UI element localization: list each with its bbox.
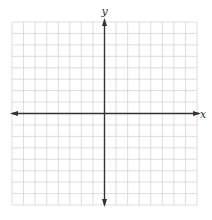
x-axis-arrow-left-icon	[10, 111, 18, 116]
y-axis-arrow-down-icon	[102, 199, 107, 207]
x-axis-label: x	[200, 108, 207, 121]
coordinate-plane: x y	[0, 0, 212, 220]
y-axis-label: y	[101, 5, 109, 18]
